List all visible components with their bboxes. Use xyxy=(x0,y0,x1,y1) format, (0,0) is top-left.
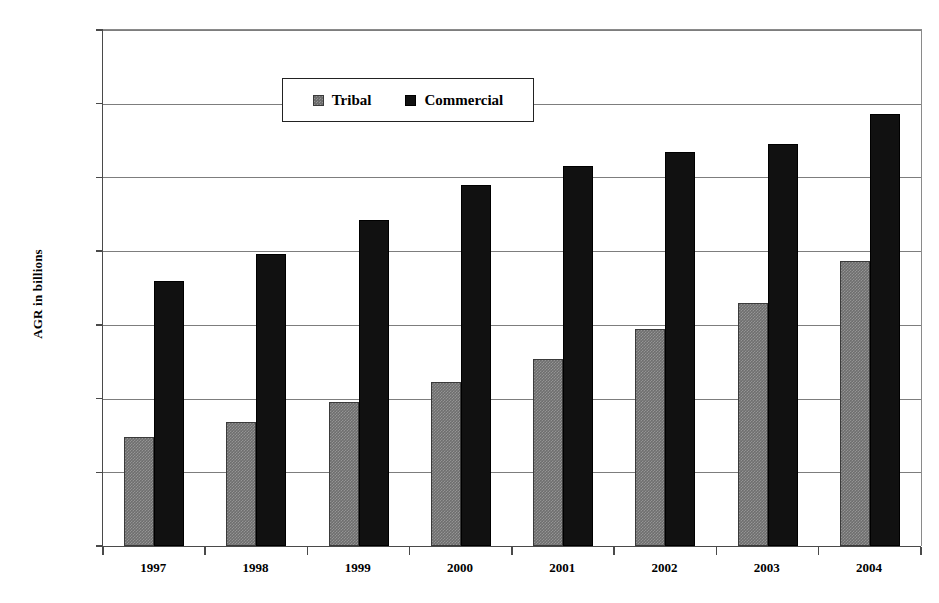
bar-group xyxy=(840,30,900,546)
x-tick-label-2004: 2004 xyxy=(814,560,924,576)
bar-commercial-1999 xyxy=(359,220,389,546)
bar-tribal-2000 xyxy=(431,382,461,546)
x-tick-label-2002: 2002 xyxy=(609,560,719,576)
x-tick-label-1998: 1998 xyxy=(200,560,310,576)
bar-group xyxy=(226,30,286,546)
y-tick-mark xyxy=(96,324,103,326)
bar-commercial-1998 xyxy=(256,254,286,546)
bar-tribal-1998 xyxy=(226,422,256,546)
bar-commercial-2002 xyxy=(665,152,695,546)
legend-swatch-tribal-icon xyxy=(313,95,324,106)
y-tick-mark xyxy=(96,103,103,105)
bar-group xyxy=(533,30,593,546)
bar-chart: AGR in billions $0.0$5.0$10.0$15.0$20.0$… xyxy=(0,0,939,603)
x-tick-mark xyxy=(307,547,309,555)
x-tick-mark xyxy=(409,547,411,555)
y-tick-mark xyxy=(96,398,103,400)
chart-legend: Tribal Commercial xyxy=(282,78,534,122)
plot-frame-right xyxy=(921,29,922,546)
x-tick-mark xyxy=(102,547,104,555)
y-tick-mark xyxy=(96,250,103,252)
bar-tribal-2002 xyxy=(635,329,665,546)
y-tick-mark xyxy=(96,177,103,179)
x-tick-mark xyxy=(716,547,718,555)
x-tick-mark xyxy=(511,547,513,555)
bar-commercial-1997 xyxy=(154,281,184,546)
x-tick-label-1999: 1999 xyxy=(303,560,413,576)
legend-entry-tribal: Tribal xyxy=(313,92,372,109)
bar-tribal-1997 xyxy=(124,437,154,546)
bar-tribal-2003 xyxy=(738,303,768,546)
bar-group xyxy=(635,30,695,546)
bar-commercial-2003 xyxy=(768,144,798,546)
x-tick-mark xyxy=(204,547,206,555)
bar-commercial-2001 xyxy=(563,166,593,546)
bar-tribal-1999 xyxy=(329,402,359,546)
legend-entry-commercial: Commercial xyxy=(405,92,503,109)
x-tick-label-2000: 2000 xyxy=(405,560,515,576)
y-tick-mark xyxy=(96,472,103,474)
x-tick-mark xyxy=(920,547,922,555)
x-tick-label-1997: 1997 xyxy=(98,560,208,576)
x-tick-label-2003: 2003 xyxy=(712,560,822,576)
legend-label-tribal: Tribal xyxy=(332,92,372,109)
bar-group xyxy=(124,30,184,546)
bar-commercial-2004 xyxy=(870,114,900,546)
x-tick-mark xyxy=(613,547,615,555)
bar-group xyxy=(738,30,798,546)
legend-label-commercial: Commercial xyxy=(424,92,503,109)
bar-commercial-2000 xyxy=(461,185,491,546)
x-tick-mark xyxy=(818,547,820,555)
y-axis-title: AGR in billions xyxy=(30,194,46,394)
x-tick-label-2001: 2001 xyxy=(507,560,617,576)
y-tick-mark xyxy=(96,29,103,31)
bar-tribal-2004 xyxy=(840,261,870,546)
legend-swatch-commercial-icon xyxy=(405,95,416,106)
bar-tribal-2001 xyxy=(533,359,563,546)
